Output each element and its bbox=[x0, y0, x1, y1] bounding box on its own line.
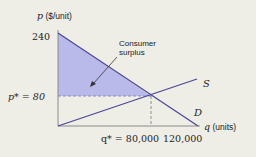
consumer-surplus-label-line2: surplus bbox=[119, 48, 145, 57]
x-tick-120000: 120,000 bbox=[163, 133, 202, 144]
q-star-label: q* = 80,000 bbox=[101, 133, 159, 144]
supply-label: S bbox=[203, 78, 210, 89]
y-axis-label: p ($/unit) bbox=[37, 10, 72, 21]
p-star-label: p* = 80 bbox=[8, 91, 45, 102]
x-axis-label: q (units) bbox=[204, 121, 236, 132]
consumer-surplus-label-line1: Consumer bbox=[119, 39, 156, 48]
supply-demand-chart: p ($/unit) 240 p* = 80 q* = 80,000 120,0… bbox=[0, 0, 256, 157]
y-tick-240: 240 bbox=[32, 31, 50, 42]
demand-label: D bbox=[193, 107, 202, 118]
